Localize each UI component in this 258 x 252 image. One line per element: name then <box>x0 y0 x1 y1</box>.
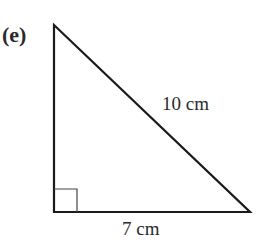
triangle <box>54 25 250 212</box>
hypotenuse-label: 10 cm <box>162 93 209 115</box>
base-label: 7 cm <box>122 218 159 240</box>
right-angle-marker <box>54 189 77 212</box>
triangle-figure <box>0 0 258 252</box>
part-label: (e) <box>2 22 26 48</box>
